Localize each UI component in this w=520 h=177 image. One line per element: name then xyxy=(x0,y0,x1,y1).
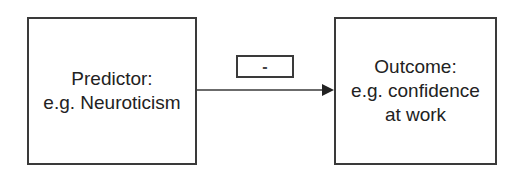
relation-sign-box: - xyxy=(236,55,294,78)
predictor-box: Predictor: e.g. Neuroticism xyxy=(27,17,197,165)
outcome-box: Outcome: e.g. confidence at work xyxy=(334,17,497,165)
predictor-title: Predictor: xyxy=(71,67,152,91)
outcome-title: Outcome: xyxy=(374,55,456,79)
arrowhead-icon xyxy=(322,84,334,96)
outcome-example-line-2: at work xyxy=(385,103,446,127)
relation-sign: - xyxy=(262,58,267,76)
predictor-example: e.g. Neuroticism xyxy=(43,91,180,115)
outcome-example-line-1: e.g. confidence xyxy=(351,79,480,103)
